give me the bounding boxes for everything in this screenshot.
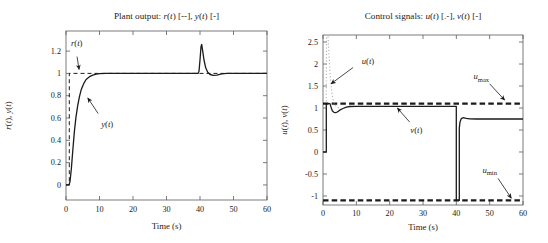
annotation-label: u(t): [362, 56, 375, 66]
x-tick-label: 40: [452, 209, 460, 218]
control-simulation-figure: 010203040506000.20.40.60.811.2r(t)y(t)Pl…: [0, 0, 548, 243]
x-tick-label: 20: [386, 209, 394, 218]
y-tick-label: 0: [57, 181, 61, 190]
chart-title: Plant output: r(t) [--], y(t) [-]: [114, 11, 219, 21]
series-u-t: [326, 37, 339, 109]
annotation-label: umax: [474, 71, 490, 82]
plant-output-chart: 010203040506000.20.40.60.811.2r(t)y(t)Pl…: [3, 11, 271, 231]
series-r-t: [66, 73, 267, 184]
y-tick-label: 0.2: [51, 158, 61, 167]
y-tick-label: 0.8: [51, 91, 61, 100]
y-tick-label: 0.5: [308, 126, 318, 135]
y-tick-label: 1.2: [51, 47, 61, 56]
y-tick-label: 1: [57, 69, 61, 78]
chart-title: Control signals: u(t) [.-], v(t) [-]: [365, 11, 482, 21]
x-tick-label: 10: [352, 209, 360, 218]
x-tick-label: 10: [95, 205, 103, 214]
x-tick-label: 60: [263, 205, 271, 214]
y-tick-label: 1: [314, 104, 318, 113]
x-tick-label: 0: [64, 205, 68, 214]
x-tick-label: 50: [229, 205, 237, 214]
y-axis-label: u(t), v(t): [279, 105, 289, 134]
annotation-label: r(t): [71, 38, 83, 48]
annotation-label: umin: [482, 165, 497, 176]
annotation-arrow: [490, 84, 505, 100]
x-axis-label: Time (s): [408, 222, 438, 232]
y-axis-label: r(t), y(t): [3, 101, 13, 129]
annotation-arrow: [77, 57, 79, 70]
series-y-t: [66, 44, 267, 185]
y-tick-label: -0.5: [305, 170, 318, 179]
x-tick-label: 30: [419, 209, 427, 218]
x-tick-label: 40: [196, 205, 204, 214]
y-tick-label: 1.5: [308, 82, 318, 91]
x-axis-label: Time (s): [152, 221, 182, 231]
series-v-t: [323, 104, 523, 201]
annotation-arrow: [88, 98, 98, 114]
y-tick-label: 2: [314, 60, 318, 69]
y-tick-label: 2.5: [308, 38, 318, 47]
control-signals-chart: 0102030405060-1-0.500.511.522.5u(t)umaxv…: [279, 11, 527, 232]
x-tick-label: 30: [162, 205, 170, 214]
x-tick-label: 50: [486, 209, 494, 218]
axes-box: [323, 35, 523, 205]
annotation-arrow: [331, 68, 353, 84]
x-tick-label: 0: [321, 209, 325, 218]
y-tick-label: -1: [311, 192, 318, 201]
figure-canvas: 010203040506000.20.40.60.811.2r(t)y(t)Pl…: [0, 0, 548, 243]
y-tick-label: 0: [314, 148, 318, 157]
y-tick-label: 0.4: [51, 136, 61, 145]
annotation-label: y(t): [100, 119, 113, 129]
annotation-arrow: [397, 108, 409, 122]
x-tick-label: 20: [129, 205, 137, 214]
x-tick-label: 60: [519, 209, 527, 218]
y-tick-label: 0.6: [51, 114, 61, 123]
axes-box: [66, 31, 267, 200]
annotation-arrow: [498, 178, 511, 198]
annotation-label: v(t): [410, 125, 422, 135]
